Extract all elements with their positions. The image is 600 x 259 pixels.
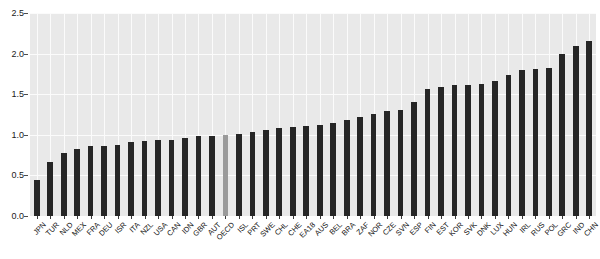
bar	[276, 128, 282, 216]
x-tick-label-text: HUN	[502, 221, 519, 238]
bar	[384, 111, 390, 216]
x-tick-mark	[279, 216, 280, 219]
bar	[438, 87, 444, 216]
x-tick-mark	[77, 216, 78, 219]
bar	[303, 126, 309, 216]
bar	[196, 136, 202, 216]
x-tick-mark	[320, 216, 321, 219]
bar	[479, 84, 485, 216]
y-tick-mark	[24, 175, 28, 176]
x-tick-mark	[508, 216, 509, 219]
bar	[223, 135, 229, 216]
x-tick-mark	[455, 216, 456, 219]
x-tick-mark	[535, 216, 536, 219]
x-tick-mark	[374, 216, 375, 219]
bar	[492, 81, 498, 216]
x-tick-mark	[428, 216, 429, 219]
bar	[452, 85, 458, 216]
bar	[506, 75, 512, 216]
x-tick-mark	[158, 216, 159, 219]
y-tick-mark	[24, 54, 28, 55]
x-axis: JPNTURNLDMEXFRADEUISRITANZLUSACANIDNGBRA…	[30, 216, 596, 259]
x-tick-mark	[185, 216, 186, 219]
x-tick-mark	[468, 216, 469, 219]
bar	[398, 110, 404, 216]
bar	[533, 69, 539, 216]
x-tick-mark	[172, 216, 173, 219]
x-tick-mark	[562, 216, 563, 219]
bar	[155, 140, 161, 216]
x-tick-mark	[387, 216, 388, 219]
bar	[88, 146, 94, 216]
y-tick-label: 0.5	[11, 171, 24, 180]
y-tick-mark	[24, 13, 28, 14]
x-tick-label-text: GRC	[556, 221, 573, 238]
bar	[559, 54, 565, 216]
x-tick-mark	[589, 216, 590, 219]
x-tick-mark	[306, 216, 307, 219]
bar	[47, 162, 53, 216]
y-tick-label: 2.0	[11, 49, 24, 58]
bar	[546, 68, 552, 216]
x-tick-mark	[239, 216, 240, 219]
plot-area	[30, 13, 596, 216]
bar	[128, 142, 134, 216]
x-tick-mark	[360, 216, 361, 219]
bar	[465, 85, 471, 216]
x-tick-mark	[145, 216, 146, 219]
x-tick-mark	[104, 216, 105, 219]
bar	[61, 153, 67, 216]
bar	[371, 114, 377, 216]
x-tick-label-text: DEU	[98, 221, 115, 238]
x-tick-mark	[131, 216, 132, 219]
bar	[263, 130, 269, 216]
bar	[209, 136, 215, 216]
x-tick-mark	[347, 216, 348, 219]
x-tick-mark	[481, 216, 482, 219]
x-tick-mark	[198, 216, 199, 219]
bar	[330, 123, 336, 216]
y-axis: 0.00.51.01.52.02.5	[0, 0, 28, 230]
x-tick-mark	[414, 216, 415, 219]
bar	[101, 146, 107, 216]
y-tick-mark	[24, 216, 28, 217]
y-tick-mark	[24, 135, 28, 136]
x-tick-mark	[495, 216, 496, 219]
x-tick-label-text: CHN	[583, 221, 600, 238]
bar	[586, 41, 592, 216]
y-tick-label: 1.5	[11, 90, 24, 99]
y-tick-label: 1.0	[11, 130, 24, 139]
bar	[115, 145, 121, 216]
x-tick-mark	[50, 216, 51, 219]
bar	[34, 180, 40, 216]
x-tick-mark	[576, 216, 577, 219]
bar	[250, 132, 256, 216]
bar	[573, 46, 579, 216]
bar	[290, 127, 296, 216]
y-tick-label: 0.0	[11, 212, 24, 221]
x-tick-mark	[37, 216, 38, 219]
bar	[317, 125, 323, 216]
x-tick-mark	[212, 216, 213, 219]
x-tick-label-text: ISR	[114, 221, 129, 236]
bar	[344, 120, 350, 216]
y-tick-mark	[24, 94, 28, 95]
bar	[142, 141, 148, 216]
x-tick-mark	[522, 216, 523, 219]
bar	[411, 102, 417, 216]
x-tick-mark	[252, 216, 253, 219]
bar	[169, 140, 175, 216]
bar	[236, 134, 242, 216]
bar	[182, 138, 188, 216]
bar	[519, 70, 525, 216]
x-tick-mark	[293, 216, 294, 219]
y-tick-label: 2.5	[11, 9, 24, 18]
x-tick-mark	[118, 216, 119, 219]
bar	[357, 117, 363, 216]
x-tick-mark	[549, 216, 550, 219]
x-tick-mark	[225, 216, 226, 219]
x-tick-mark	[64, 216, 65, 219]
bars-layer	[30, 13, 596, 216]
x-tick-mark	[91, 216, 92, 219]
